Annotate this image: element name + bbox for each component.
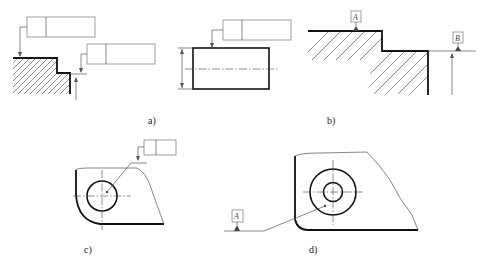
datum-triangle-icon xyxy=(455,46,461,51)
panel-b: A B b) xyxy=(300,11,476,127)
caption-b: b) xyxy=(327,115,335,127)
arrow-icon xyxy=(180,49,184,54)
panel-c: c) xyxy=(73,140,176,256)
rectangle-part xyxy=(193,48,269,89)
datum-label-a: A xyxy=(352,13,358,22)
step-outline-b xyxy=(308,31,428,95)
hatch-b xyxy=(300,30,432,94)
panel-d: A d) xyxy=(224,152,418,256)
caption-c: c) xyxy=(84,244,92,256)
arrow-icon xyxy=(74,77,78,82)
feature-control-frame-4 xyxy=(144,140,176,155)
technical-drawing: a) A xyxy=(0,0,484,268)
feature-control-frame-2 xyxy=(87,44,155,64)
part-outline-c-thick xyxy=(76,170,164,224)
panel-rectangle xyxy=(178,20,291,89)
arrow-icon xyxy=(136,156,140,161)
datum-triangle-icon xyxy=(353,26,359,31)
arrow-icon xyxy=(18,52,22,57)
feature-control-frame-1 xyxy=(27,17,95,37)
feature-control-frame-3 xyxy=(223,20,291,40)
datum-label-b: B xyxy=(455,34,460,43)
arrow-icon xyxy=(79,68,83,73)
datum-label-d: A xyxy=(233,212,239,221)
caption-a: a) xyxy=(148,115,156,127)
arrow-icon xyxy=(180,83,184,88)
arrow-icon xyxy=(450,53,454,58)
panel-a: a) xyxy=(0,17,156,127)
caption-d: d) xyxy=(309,244,317,256)
datum-triangle-icon xyxy=(234,225,240,231)
